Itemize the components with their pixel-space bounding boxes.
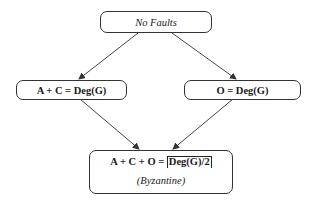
edge-nofaults-to-ac xyxy=(79,33,138,79)
node-no-faults-label: No Faults xyxy=(135,17,177,28)
edge-nofaults-to-o xyxy=(172,33,236,79)
node-o-deg-label: O = Deg(G) xyxy=(216,85,268,96)
node-byzantine-sublabel: (Byzantine) xyxy=(137,175,185,186)
node-ac-deg: A + C = Deg(G) xyxy=(16,80,127,100)
node-byzantine-formula-ceil: Deg(G)/2 xyxy=(169,156,210,167)
node-byzantine-formula-prefix: A + C + O = xyxy=(110,156,166,167)
node-o-deg: O = Deg(G) xyxy=(184,80,301,100)
node-no-faults: No Faults xyxy=(100,11,212,33)
node-ac-deg-label: A + C = Deg(G) xyxy=(37,85,107,96)
edge-ac-to-byzantine xyxy=(80,99,139,149)
edge-o-to-byzantine xyxy=(173,99,233,149)
node-byzantine-formula: A + C + O = Deg(G)/2 xyxy=(110,156,211,168)
node-byzantine: A + C + O = Deg(G)/2 (Byzantine) xyxy=(89,150,233,194)
ceiling-bracket: Deg(G)/2 xyxy=(167,156,212,168)
